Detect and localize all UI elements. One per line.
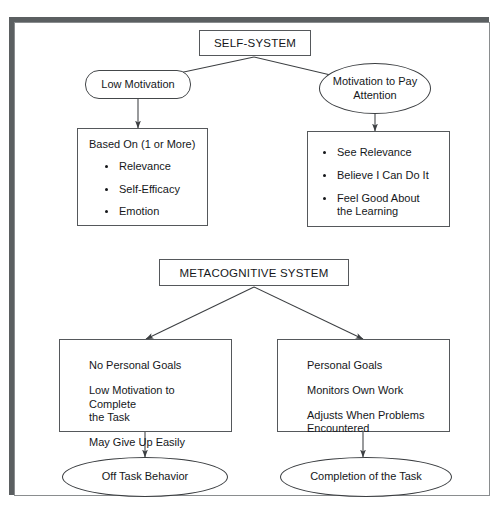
based-on-bullet-3: Emotion bbox=[119, 205, 159, 217]
edge-meta-to-personal-goals bbox=[254, 287, 363, 339]
node-low-motivation-label: Low Motivation bbox=[101, 78, 174, 91]
outcome-bullet-2: Believe I Can Do It bbox=[337, 169, 429, 181]
bullet-dot-icon bbox=[323, 197, 326, 200]
goals-line-1: Personal Goals bbox=[307, 359, 382, 371]
node-motivation-to-pay-attention[interactable]: Motivation to Pay Attention bbox=[319, 63, 431, 114]
node-based-on[interactable]: Based On (1 or More) Relevance Self-Effi… bbox=[77, 128, 208, 226]
list-item: Adjusts When Problems Encountered bbox=[289, 409, 439, 437]
list-item: Self-Efficacy bbox=[89, 183, 197, 197]
no-goals-line-3: May Give Up Easily bbox=[89, 436, 185, 448]
outcome-bullet-1: See Relevance bbox=[337, 146, 412, 158]
personal-goals-lines: Personal Goals Monitors Own Work Adjusts… bbox=[289, 359, 439, 436]
node-positive-outcomes[interactable]: See Relevance Believe I Can Do It Feel G… bbox=[307, 131, 450, 227]
based-on-heading: Based On (1 or More) bbox=[89, 138, 197, 152]
list-item: May Give Up Easily bbox=[71, 436, 221, 450]
list-item: Monitors Own Work bbox=[289, 384, 439, 398]
outcome-bullet-3-line-2: the Learning bbox=[337, 205, 398, 217]
node-metacognitive-system[interactable]: METACOGNITIVE SYSTEM bbox=[159, 259, 349, 286]
list-item: Relevance bbox=[89, 160, 197, 174]
node-personal-goals[interactable]: Personal Goals Monitors Own Work Adjusts… bbox=[277, 339, 450, 432]
bullet-dot-icon bbox=[105, 188, 108, 191]
no-goals-line-2b: the Task bbox=[89, 411, 130, 423]
node-off-task-behavior[interactable]: Off Task Behavior bbox=[62, 457, 228, 497]
list-item: See Relevance bbox=[319, 146, 439, 160]
node-self-system[interactable]: SELF-SYSTEM bbox=[199, 30, 311, 56]
flowchart-diagram: SELF-SYSTEM Low Motivation Motivation to… bbox=[0, 0, 504, 519]
positive-outcomes-bullet-list: See Relevance Believe I Can Do It Feel G… bbox=[319, 146, 439, 219]
node-completion-of-task[interactable]: Completion of the Task bbox=[280, 457, 452, 497]
bullet-dot-icon bbox=[105, 210, 108, 213]
list-item: Emotion bbox=[89, 205, 197, 219]
based-on-bullet-2: Self-Efficacy bbox=[119, 183, 180, 195]
bullet-dot-icon bbox=[105, 165, 108, 168]
bullet-dot-icon bbox=[323, 151, 326, 154]
edge-meta-to-no-personal-goals bbox=[146, 287, 254, 339]
node-motivation-line-2: Attention bbox=[353, 89, 396, 102]
node-self-system-label: SELF-SYSTEM bbox=[214, 37, 296, 49]
node-completion-of-task-label: Completion of the Task bbox=[310, 470, 422, 483]
list-item: Personal Goals bbox=[289, 359, 439, 373]
goals-line-3a: Adjusts When Problems bbox=[307, 409, 424, 421]
bullet-dot-icon bbox=[323, 174, 326, 177]
based-on-bullet-1: Relevance bbox=[119, 160, 171, 172]
list-item: No Personal Goals bbox=[71, 359, 221, 373]
goals-line-3b: Encountered bbox=[307, 422, 369, 434]
goals-line-2: Monitors Own Work bbox=[307, 384, 403, 396]
list-item: Low Motivation to Complete the Task bbox=[71, 384, 221, 425]
outcome-bullet-3-line-1: Feel Good About bbox=[337, 192, 420, 204]
node-metacognitive-system-label: METACOGNITIVE SYSTEM bbox=[180, 267, 329, 279]
list-item: Feel Good About the Learning bbox=[319, 192, 439, 220]
node-off-task-behavior-label: Off Task Behavior bbox=[102, 470, 188, 483]
node-low-motivation[interactable]: Low Motivation bbox=[85, 70, 191, 99]
no-personal-goals-lines: No Personal Goals Low Motivation to Comp… bbox=[71, 359, 221, 450]
no-goals-line-1: No Personal Goals bbox=[89, 359, 181, 371]
list-item: Believe I Can Do It bbox=[319, 169, 439, 183]
no-goals-line-2a: Low Motivation to Complete bbox=[89, 384, 175, 410]
node-motivation-line-1: Motivation to Pay bbox=[333, 75, 417, 88]
node-no-personal-goals[interactable]: No Personal Goals Low Motivation to Comp… bbox=[59, 339, 232, 432]
based-on-bullet-list: Relevance Self-Efficacy Emotion bbox=[89, 160, 197, 219]
